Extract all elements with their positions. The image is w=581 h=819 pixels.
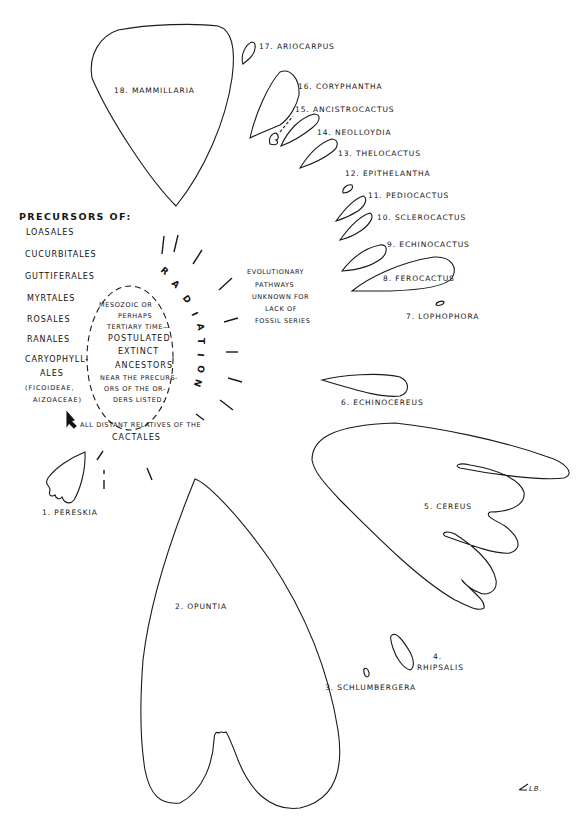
radiation-letter: O — [195, 364, 206, 373]
shape-cereus — [312, 423, 569, 609]
shape-pereskia — [47, 452, 85, 503]
precursor-order: GUTTIFERALES — [25, 273, 95, 281]
shape-epithelantha — [343, 185, 353, 193]
shape-coryphantha — [250, 71, 299, 138]
ancestor-text: DERS LISTED. — [113, 397, 165, 404]
ancestor-text: ANCESTORS — [115, 362, 173, 370]
ancestor-text: ORS OF THE OR- — [104, 386, 166, 393]
label-thelocactus: 13. THELOCACTUS — [338, 150, 421, 158]
ancestor-text: POSTULATED — [108, 335, 171, 343]
precursor-order: CUCURBITALES — [25, 251, 96, 259]
label-ferocactus: 8. FEROCACTUS — [383, 275, 455, 283]
shape-echinocereus — [322, 374, 408, 396]
label-echinocactus: 9. ECHINOCACTUS — [387, 241, 470, 249]
precursor-order: RANALES — [27, 336, 70, 344]
precursor-note: AIZOACEAE) — [33, 397, 82, 404]
ancestor-text: TERTIARY TIME— — [107, 324, 170, 331]
precursor-note: (FICOIDEAE, — [25, 385, 74, 392]
precursor-order: ROSALES — [27, 316, 70, 324]
evolution-note-line: PATHWAYS — [255, 282, 294, 289]
shape-sclerocactus — [340, 213, 372, 240]
ancestor-text: MESOZOIC OR — [99, 302, 152, 309]
label-sclerocactus: 10. SCLEROCACTUS — [377, 214, 466, 222]
label-pediocactus: 11. PEDIOCACTUS — [368, 192, 449, 200]
shape-ancistrocactus — [269, 133, 278, 145]
ancestor-text: NEAR THE PRECURS- — [100, 375, 178, 382]
label-pereskia: 1. PERESKIA — [42, 509, 98, 517]
label-echinocereus: 6. ECHINOCEREUS — [341, 399, 424, 407]
ancestor-text: PERHAPS — [118, 313, 152, 320]
relatives-note-cactales: CACTALES — [112, 434, 161, 442]
precursor-order: ALES — [40, 370, 64, 378]
label-lophophora: 7. LOPHOPHORA — [406, 313, 479, 321]
precursor-order: LOASALES — [26, 229, 74, 237]
precursor-order: MYRTALES — [27, 295, 75, 303]
ancestor-text: EXTINCT — [118, 348, 159, 356]
label-rhipsalis: RHIPSALIS — [417, 664, 464, 672]
shape-schlumbergera — [364, 668, 369, 677]
evolution-note-line: FOSSIL SERIES — [255, 318, 310, 325]
label-schlumbergera: 3. SCHLUMBERGERA — [325, 684, 416, 692]
shape-lophophora — [436, 301, 444, 305]
label-coryphantha: 16. CORYPHANTHA — [298, 83, 383, 91]
signature-mark — [519, 784, 528, 790]
label-ancistrocactus: 15. ANCISTROCACTUS — [295, 106, 394, 114]
shape-thelocactus — [300, 139, 337, 168]
shape-opuntia — [141, 479, 340, 808]
label-opuntia: 2. OPUNTIA — [175, 603, 227, 611]
shape-mammillaria — [91, 24, 233, 206]
precursor-order: CARYOPHYLL- — [25, 356, 89, 364]
label-cereus: 5. CEREUS — [424, 503, 472, 511]
relatives-note: ALL DISTANT RELATIVES OF THE — [80, 422, 201, 429]
phylogeny-shapes — [0, 0, 581, 819]
shape-echinocactus — [342, 245, 386, 271]
shape-ariocarpus — [242, 42, 255, 64]
label-neolloydia: 14. NEOLLOYDIA — [317, 129, 391, 137]
arrow-icon — [67, 412, 76, 428]
label-rhipsalis-number: 4. — [433, 653, 442, 661]
radiation-letter: T — [196, 338, 206, 344]
evolution-note-line: LACK OF — [265, 306, 297, 313]
precursors-title: PRECURSORS OF: — [19, 212, 132, 222]
signature: LB. — [529, 786, 543, 793]
label-mammillaria: 18. MAMMILLARIA — [114, 87, 195, 95]
label-ariocarpus: 17. ARIOCARPUS — [259, 43, 335, 51]
shape-rhipsalis — [391, 634, 414, 670]
label-epithelantha: 12. EPITHELANTHA — [345, 170, 431, 178]
evolution-note-line: UNKNOWN FOR — [252, 294, 309, 301]
evolution-note-line: EVOLUTIONARY — [247, 269, 304, 276]
